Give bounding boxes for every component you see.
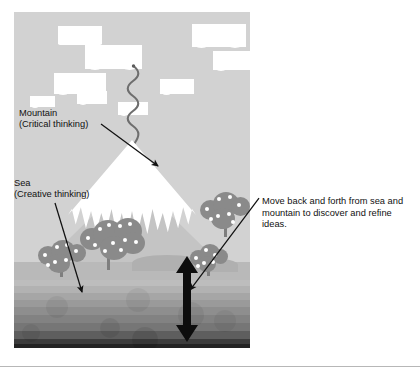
label-note: Move back and forth from sea and mountai… [262, 196, 414, 231]
sea-bubble [100, 318, 120, 338]
cloud-icon [192, 24, 246, 47]
label-mountain: Mountain (Critical thinking) [19, 108, 88, 131]
sea-bubble [132, 327, 158, 348]
cloud-icon [77, 91, 107, 104]
sea-bubble [126, 288, 150, 312]
tree-icon [38, 238, 86, 278]
cloud-icon [213, 51, 250, 70]
wavy-line-icon [118, 64, 148, 146]
sea-bubble [214, 310, 236, 332]
cloud-icon [58, 26, 102, 44]
cloud-icon [30, 96, 55, 107]
sea-bubble [46, 296, 68, 318]
sea-bubble [22, 324, 40, 342]
illustration-figure: Mountain (Critical thinking) Sea (Creati… [0, 0, 420, 379]
label-sea: Sea (Creative thinking) [14, 178, 89, 201]
sea-region [14, 280, 250, 348]
caption-divider [0, 366, 420, 367]
tree-icon [76, 218, 146, 272]
double-headed-vertical-arrow-icon [174, 256, 200, 342]
tree-icon [200, 190, 250, 238]
cloud-icon [160, 79, 194, 94]
caption-text [2, 369, 418, 378]
